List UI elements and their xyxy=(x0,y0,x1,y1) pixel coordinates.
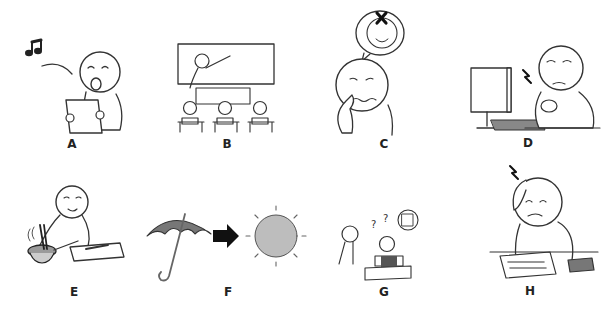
svg-text:?: ? xyxy=(383,213,388,224)
cutting-board-icon xyxy=(70,243,124,261)
blackboard-icon xyxy=(178,44,274,84)
panel-g: ?? G xyxy=(335,210,435,300)
sun-icon xyxy=(246,206,306,266)
wrist-pain-illustration xyxy=(465,40,602,150)
svg-text:?: ? xyxy=(371,219,376,230)
bowl-icon xyxy=(28,245,56,263)
panel-d: D xyxy=(465,40,602,150)
question-mark-icon: ?? xyxy=(371,213,388,230)
book-icon xyxy=(402,214,413,226)
stressed-person-illustration xyxy=(480,160,602,300)
pain-bolt-icon xyxy=(523,70,531,83)
panel-label: H xyxy=(525,284,535,298)
panel-label: C xyxy=(380,137,389,151)
panel-h: H xyxy=(480,160,602,300)
thought-bubble-icon xyxy=(398,210,418,230)
panel-label: D xyxy=(523,136,533,150)
worried-person-illustration xyxy=(330,5,440,150)
cooking-person-illustration xyxy=(20,185,130,300)
panel-label: B xyxy=(222,137,231,151)
panel-a: A xyxy=(20,30,130,150)
monitor-icon xyxy=(471,68,511,128)
panel-label: E xyxy=(70,285,78,299)
panel-label: A xyxy=(67,137,76,151)
book-icon xyxy=(568,258,594,272)
panel-b: B xyxy=(170,40,280,155)
umbrella-icon xyxy=(147,214,211,281)
panel-f: F xyxy=(143,210,303,300)
music-note-icon xyxy=(26,40,41,55)
panel-c: C xyxy=(330,5,440,150)
arrow-right-icon xyxy=(213,224,239,248)
panel-label: F xyxy=(224,285,232,299)
panel-e: E xyxy=(20,185,130,300)
panel-label: G xyxy=(379,285,389,299)
papers-icon xyxy=(500,252,556,278)
singing-person-illustration xyxy=(20,30,130,150)
pain-bolt-icon xyxy=(510,166,518,179)
